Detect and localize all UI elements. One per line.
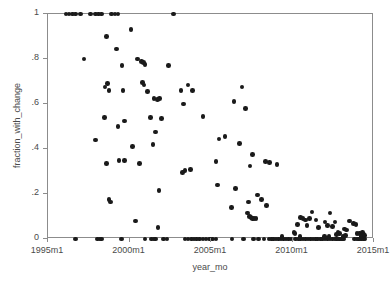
data-point [233, 186, 238, 191]
data-point [153, 237, 158, 242]
data-point [362, 233, 367, 238]
data-point [264, 203, 269, 208]
data-point [73, 237, 78, 242]
data-point [159, 116, 164, 121]
data-point [343, 233, 348, 238]
data-point [171, 12, 176, 17]
data-point [88, 12, 93, 17]
data-point [254, 216, 259, 221]
x-axis-tick-label: 2010m1 [262, 245, 322, 255]
scatter-chart-figure: 0.2.4.6.81 1995m12000m12005m12010m12015m… [0, 0, 392, 289]
data-point [295, 222, 300, 227]
y-axis-tick-label: .4 [31, 143, 39, 152]
data-point [293, 231, 298, 236]
x-axis-tick-mark [373, 238, 374, 242]
data-point [325, 223, 330, 228]
x-axis-tick-mark [292, 238, 293, 242]
data-point [181, 102, 186, 107]
x-axis-label: year_mo [47, 262, 373, 273]
data-point [102, 115, 107, 120]
data-point [186, 83, 191, 88]
data-point [116, 124, 121, 129]
data-point [104, 34, 109, 39]
data-point [243, 106, 248, 111]
data-point [215, 183, 220, 188]
data-point [114, 47, 119, 52]
y-axis-tick-label: .8 [31, 53, 39, 62]
data-point [314, 218, 319, 223]
y-axis-tick-label: .2 [31, 188, 39, 197]
data-point [188, 167, 193, 172]
data-point [248, 164, 253, 169]
data-point [143, 237, 148, 242]
data-point [328, 211, 333, 216]
data-point [137, 161, 142, 166]
data-point [116, 12, 121, 17]
data-point [251, 237, 256, 242]
data-point [305, 223, 310, 228]
x-axis-tick-mark [129, 238, 130, 242]
data-point [298, 234, 303, 239]
data-point [120, 63, 125, 68]
y-axis-tick-mark [43, 193, 47, 194]
data-point [262, 237, 267, 242]
y-axis-tick-mark [43, 103, 47, 104]
data-point [179, 88, 184, 93]
x-axis-tick-mark [47, 238, 48, 242]
y-axis-label: fraction_with_change [11, 13, 23, 238]
data-point [275, 162, 280, 167]
data-point [129, 27, 134, 32]
data-point [78, 12, 83, 17]
data-point [107, 88, 112, 93]
data-point [104, 161, 109, 166]
data-point [217, 137, 222, 142]
data-point [155, 97, 160, 102]
data-point [82, 57, 87, 62]
data-point [240, 85, 245, 90]
data-point [145, 89, 150, 94]
data-points-layer [48, 14, 372, 237]
x-axis-tick-mark [210, 238, 211, 242]
data-point [166, 63, 171, 68]
data-point [93, 138, 98, 143]
data-point [259, 197, 264, 202]
x-axis-tick-label: 1995m1 [17, 245, 77, 255]
data-point [250, 152, 255, 157]
data-point [143, 62, 148, 67]
x-axis-tick-label: 2015m1 [343, 245, 392, 255]
y-axis-tick-mark [43, 13, 47, 14]
data-point [246, 200, 251, 205]
y-axis-tick-label: .6 [31, 98, 39, 107]
data-point [190, 88, 195, 93]
data-point [156, 225, 161, 230]
data-point [316, 225, 321, 230]
y-axis-tick-mark [43, 58, 47, 59]
data-point [344, 228, 349, 233]
data-point [267, 160, 272, 165]
data-point [122, 119, 127, 124]
data-point [157, 188, 162, 193]
data-point [214, 159, 219, 164]
data-point [108, 200, 113, 205]
plot-area [47, 13, 373, 238]
data-point [223, 134, 228, 139]
data-point [354, 222, 359, 227]
y-axis-label-wrap: fraction_with_change [11, 13, 23, 238]
y-axis-tick-label: 0 [34, 233, 39, 242]
data-point [310, 210, 315, 215]
data-point [153, 130, 158, 135]
y-axis-tick-label: 1 [34, 8, 39, 17]
data-point [229, 205, 234, 210]
data-point [201, 114, 206, 119]
data-point [133, 219, 138, 224]
data-point [237, 141, 242, 146]
data-point [214, 237, 219, 242]
data-point [165, 237, 170, 242]
data-point [307, 216, 312, 221]
data-point [142, 83, 147, 88]
data-point [180, 170, 185, 175]
data-point [119, 237, 124, 242]
data-point [117, 158, 122, 163]
data-point [230, 237, 235, 242]
data-point [73, 12, 78, 17]
